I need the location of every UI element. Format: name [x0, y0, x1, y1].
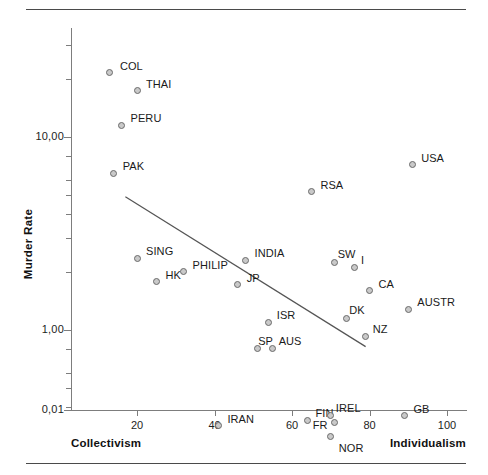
data-point-label-thai: THAI [146, 78, 171, 90]
data-point-label-aus: AUS [279, 335, 302, 347]
x-axis-right-label: Individualism [390, 437, 466, 449]
x-tick-label-100: 100 [438, 419, 456, 431]
x-axis-line [71, 410, 467, 411]
y-tick-label-10,00: 10,00 [35, 130, 64, 142]
data-point-label-col: COL [120, 60, 143, 72]
data-point-nz[interactable] [362, 333, 369, 340]
y-tick-10,00 [64, 137, 71, 138]
y-minor-tick [66, 407, 71, 408]
data-point-rsa[interactable] [308, 188, 315, 195]
x-tick-60 [292, 410, 293, 416]
data-point-label-peru: PERU [131, 112, 162, 124]
y-tick-0,01 [64, 410, 71, 411]
data-point-label-austr: AUSTR [417, 296, 455, 308]
data-point-aus[interactable] [269, 345, 276, 352]
data-point-india[interactable] [242, 257, 249, 264]
data-point-label-india: INDIA [255, 247, 285, 259]
data-point-label-sw: SW [338, 248, 356, 260]
data-point-gb[interactable] [401, 412, 408, 419]
y-minor-tick [66, 349, 71, 350]
x-axis-left-label: Collectivism [71, 437, 141, 449]
data-point-label-iran: IRAN [227, 413, 254, 425]
x-tick-40 [215, 410, 216, 416]
scatter-plot: 2040608010010,001,000,100,01 COLTHAIPERU… [0, 0, 488, 475]
data-point-philip[interactable] [180, 268, 187, 275]
data-point-fin[interactable] [304, 417, 311, 424]
y-axis-title: Murder Rate [22, 189, 34, 299]
y-tick-label-0,01: 0,01 [42, 403, 64, 415]
data-point-label-rsa: RSA [320, 179, 343, 191]
data-point-col[interactable] [106, 69, 113, 76]
data-point-nor[interactable] [327, 433, 334, 440]
x-tick-20 [137, 410, 138, 416]
y-minor-tick [66, 214, 71, 215]
x-tick-label-20: 20 [131, 419, 143, 431]
data-point-sing[interactable] [134, 255, 141, 262]
data-point-i[interactable] [351, 264, 358, 271]
data-point-jp[interactable] [234, 281, 241, 288]
y-minor-tick [66, 238, 71, 239]
data-point-label-hk: HK [165, 269, 180, 281]
y-minor-tick [66, 180, 71, 181]
data-point-label-usa: USA [421, 152, 444, 164]
y-minor-tick [66, 156, 71, 157]
data-point-label-pak: PAK [123, 160, 145, 172]
y-minor-tick [66, 388, 71, 389]
data-point-label-sing: SING [146, 245, 173, 257]
y-minor-tick [66, 45, 71, 46]
x-tick-100 [447, 410, 448, 416]
data-point-isr[interactable] [265, 319, 272, 326]
data-point-label-nor: NOR [339, 442, 364, 454]
data-point-austr[interactable] [405, 306, 412, 313]
x-tick-label-80: 80 [363, 419, 375, 431]
data-point-ca[interactable] [366, 287, 373, 294]
data-point-label-philip: PHILIP [193, 259, 228, 271]
data-point-fr[interactable] [331, 419, 338, 426]
y-axis-line [71, 28, 72, 411]
figure-container: 2040608010010,001,000,100,01 COLTHAIPERU… [0, 0, 488, 475]
data-point-label-isr: ISR [277, 309, 296, 321]
data-point-iran[interactable] [215, 422, 222, 429]
data-point-usa[interactable] [409, 161, 416, 168]
data-point-pak[interactable] [110, 170, 117, 177]
y-minor-tick [66, 272, 71, 273]
data-point-peru[interactable] [118, 122, 125, 129]
data-point-label-dk: DK [349, 304, 364, 316]
y-minor-tick [66, 79, 71, 80]
data-point-label-jp: JP [247, 272, 260, 284]
x-tick-label-60: 60 [286, 419, 298, 431]
data-point-label-gb: GB [413, 403, 429, 415]
y-minor-tick [66, 195, 71, 196]
y-tick-1,00 [64, 330, 71, 331]
x-tick-80 [370, 410, 371, 416]
y-tick-label-1,00: 1,00 [42, 323, 64, 335]
data-point-hk[interactable] [153, 278, 160, 285]
y-minor-tick [66, 373, 71, 374]
data-point-label-fr: FR [313, 419, 328, 431]
data-point-label-ca: CA [379, 278, 394, 290]
data-point-thai[interactable] [134, 87, 141, 94]
data-point-label-irel: IREL [336, 402, 361, 414]
data-point-label-nz: NZ [373, 323, 388, 335]
data-point-label-i: I [361, 254, 364, 266]
